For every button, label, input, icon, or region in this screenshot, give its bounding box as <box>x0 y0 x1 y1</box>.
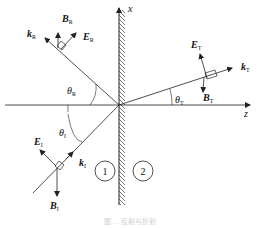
z-axis-label: z <box>243 108 248 119</box>
incident-B-label: BI <box>49 200 59 212</box>
incident-angle-label: θI <box>59 127 66 139</box>
reflected-wave <box>45 33 119 105</box>
transmitted-B-arrow <box>203 77 204 92</box>
incident-wave <box>33 105 119 196</box>
medium-2-marker: 2 <box>133 161 153 181</box>
interface-plane <box>119 8 125 205</box>
transmitted-k-label: kT <box>241 61 250 73</box>
reflected-k-arrow <box>45 38 119 105</box>
reflected-angle-arc <box>90 84 96 105</box>
reflected-E-arrow <box>61 33 76 49</box>
medium-1-marker: 1 <box>95 161 115 181</box>
incident-k-arrow <box>66 152 73 159</box>
transmitted-E-arrow <box>200 54 207 78</box>
reflected-k-label: kR <box>27 28 36 40</box>
incident-E-arrow <box>40 150 56 166</box>
figure-caption: 图 … 反射与折射 <box>104 217 157 226</box>
incident-angle-arc <box>68 114 82 142</box>
diagram-canvas: x z kR BR ER θR kT ET BT θT kI EI BI θI <box>0 0 261 228</box>
transmitted-E-label: ET <box>190 39 202 51</box>
reflected-B-label: BR <box>61 13 73 25</box>
transmitted-angle-arc <box>170 89 172 105</box>
svg-text:2: 2 <box>141 166 146 177</box>
transmitted-B-label: BT <box>202 92 214 104</box>
reflected-E-label: ER <box>82 31 94 43</box>
reflected-angle-label: θR <box>67 85 76 97</box>
incident-k-label: kI <box>79 157 86 169</box>
svg-text:1: 1 <box>103 166 108 177</box>
incident-E-label: EI <box>33 136 43 148</box>
x-axis-label: x <box>127 3 133 14</box>
transmitted-angle-label: θT <box>175 94 184 106</box>
incident-ray <box>33 105 119 193</box>
